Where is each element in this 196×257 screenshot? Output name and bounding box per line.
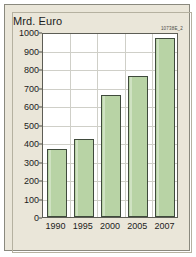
gridline-vertical <box>97 34 98 217</box>
chart-figure: Mrd. Euro 10738E_2 010020030040050060070… <box>0 0 196 257</box>
y-axis-tick-mark <box>39 33 42 34</box>
y-axis-tick-mark <box>39 51 42 52</box>
x-axis-tick-label: 1990 <box>46 221 66 231</box>
gridline-vertical <box>125 34 126 217</box>
y-axis-tick-mark <box>39 88 42 89</box>
graphic-id-code: 10738E_2 <box>161 26 183 31</box>
bar-highlight <box>157 39 159 216</box>
x-axis-labels: 19901995200020052007 <box>42 221 178 237</box>
bar <box>47 149 67 217</box>
y-axis-tick-label: 800 <box>24 65 39 75</box>
plot-surface <box>43 34 177 217</box>
gridline-vertical <box>152 34 153 217</box>
bar-highlight <box>130 77 132 216</box>
bar <box>74 139 94 217</box>
y-axis-tick-mark <box>39 70 42 71</box>
x-axis-tick-label: 2007 <box>154 221 174 231</box>
bar <box>128 76 148 217</box>
y-axis-tick-label: 300 <box>24 158 39 168</box>
y-axis-tick-label: 600 <box>24 102 39 112</box>
bar-highlight <box>103 96 105 216</box>
bar-highlight <box>76 140 78 216</box>
y-axis-tick-mark <box>39 181 42 182</box>
bar-highlight <box>49 150 51 216</box>
y-axis-tick-label: 1000 <box>19 28 39 38</box>
y-axis-tick-label: 500 <box>24 121 39 131</box>
y-axis-labels: 01002003004005006007008009001000 <box>8 33 39 218</box>
y-axis-tick-mark <box>39 125 42 126</box>
x-axis-tick-label: 2005 <box>127 221 147 231</box>
y-axis-tick-mark <box>39 199 42 200</box>
y-axis-tick-label: 900 <box>24 47 39 57</box>
y-axis-tick-mark <box>39 218 42 219</box>
y-axis-tick-mark <box>39 162 42 163</box>
y-axis-tick-label: 100 <box>24 195 39 205</box>
gridline-vertical <box>70 34 71 217</box>
y-axis-unit-label: Mrd. Euro <box>13 15 62 27</box>
bar <box>155 38 175 217</box>
y-axis-tick-label: 400 <box>24 139 39 149</box>
y-axis-tick-label: 700 <box>24 84 39 94</box>
x-axis-tick-label: 1995 <box>73 221 93 231</box>
y-axis-tick-label: 200 <box>24 176 39 186</box>
bar <box>101 95 121 217</box>
y-axis-tick-mark <box>39 144 42 145</box>
x-axis-tick-label: 2000 <box>100 221 120 231</box>
y-axis-tick-mark <box>39 107 42 108</box>
plot-area <box>42 33 178 218</box>
